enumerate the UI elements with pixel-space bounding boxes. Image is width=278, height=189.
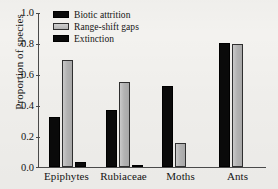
x-tick-label: Ants bbox=[209, 170, 266, 182]
legend-entry: Extinction bbox=[53, 33, 139, 44]
y-tick-label: 0.2 bbox=[10, 132, 34, 143]
bar-group bbox=[209, 13, 266, 167]
x-tick-label: Rubiaceae bbox=[95, 170, 152, 182]
x-tick-label: Moths bbox=[152, 170, 209, 182]
bar bbox=[106, 110, 117, 167]
legend-entry: Range-shift gaps bbox=[53, 21, 139, 32]
x-tick-label: Epiphytes bbox=[38, 170, 95, 182]
bar bbox=[162, 86, 173, 167]
y-tick-label: 0.6 bbox=[10, 70, 34, 81]
y-tick-label: 0.4 bbox=[10, 101, 34, 112]
bar bbox=[132, 165, 143, 167]
y-tick-label: 0.8 bbox=[10, 39, 34, 50]
chart-legend: Biotic attrition Range-shift gaps Extinc… bbox=[53, 9, 139, 45]
x-axis-tick-labels: Epiphytes Rubiaceae Moths Ants bbox=[38, 170, 266, 182]
bar bbox=[219, 43, 230, 167]
bar bbox=[75, 162, 86, 167]
bar-group bbox=[153, 13, 210, 167]
bar bbox=[49, 117, 60, 167]
y-axis-tick-labels: 1.0 0.8 0.6 0.4 0.2 0.0 bbox=[8, 0, 34, 189]
bar bbox=[232, 44, 243, 167]
bar bbox=[119, 82, 130, 167]
legend-swatch-icon bbox=[53, 23, 69, 30]
bar-chart-figure: Proportion of species 1.0 0.8 0.6 0.4 0.… bbox=[0, 0, 278, 189]
y-tick-mark bbox=[36, 167, 40, 168]
legend-entry: Biotic attrition bbox=[53, 9, 139, 20]
y-tick-label: 0.0 bbox=[10, 163, 34, 174]
y-tick-label: 1.0 bbox=[10, 8, 34, 19]
bar bbox=[62, 60, 73, 167]
legend-entry-label: Extinction bbox=[74, 34, 114, 44]
legend-entry-label: Range-shift gaps bbox=[74, 22, 139, 32]
bar bbox=[175, 143, 186, 167]
legend-swatch-icon bbox=[53, 35, 69, 42]
legend-entry-label: Biotic attrition bbox=[74, 10, 130, 20]
legend-swatch-icon bbox=[53, 11, 69, 18]
